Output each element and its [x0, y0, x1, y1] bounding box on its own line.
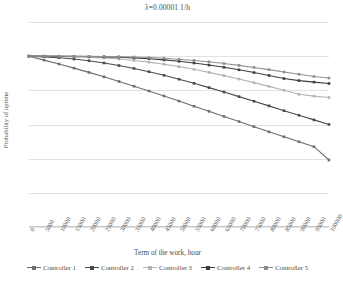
- data-point-marker: [178, 78, 181, 81]
- data-point-marker: [88, 71, 91, 74]
- legend-label: Controller 3: [159, 264, 192, 271]
- data-point-marker: [178, 58, 181, 61]
- data-point-marker: [163, 63, 166, 66]
- data-point-marker: [103, 62, 106, 65]
- data-point-marker: [283, 71, 286, 74]
- data-point-marker: [328, 96, 331, 99]
- legend-item-3[interactable]: Controller 3: [143, 264, 192, 271]
- data-point-marker: [253, 71, 256, 74]
- data-point-marker: [208, 71, 211, 74]
- data-point-marker: [118, 80, 121, 83]
- legend-marker-icon: [143, 265, 157, 271]
- legend-marker-icon: [85, 265, 99, 271]
- data-point-marker: [238, 95, 241, 98]
- data-point-marker: [268, 68, 271, 71]
- data-point-marker: [193, 59, 196, 62]
- data-point-marker: [328, 82, 331, 85]
- legend-item-2[interactable]: Controller 2: [85, 264, 134, 271]
- data-point-marker: [298, 93, 301, 96]
- data-point-marker: [223, 115, 226, 118]
- data-point-marker: [88, 59, 91, 62]
- data-point-marker: [208, 86, 211, 89]
- legend-marker-icon: [259, 265, 273, 271]
- data-point-marker: [133, 85, 136, 88]
- data-point-marker: [148, 56, 151, 59]
- data-point-marker: [238, 64, 241, 67]
- data-point-marker: [238, 69, 241, 72]
- legend-label: Controller 4: [217, 264, 250, 271]
- data-point-marker: [148, 90, 151, 93]
- data-point-marker: [268, 85, 271, 88]
- data-point-marker: [253, 81, 256, 84]
- data-point-marker: [73, 55, 76, 58]
- data-point-marker: [148, 70, 151, 73]
- chart-legend: Controller 1Controller 2Controller 3Cont…: [0, 264, 335, 271]
- x-axis-title: Term of the work, hour: [0, 249, 335, 257]
- data-point-marker: [118, 64, 121, 67]
- y-axis-title-wrap: Probability of uptime: [0, 60, 11, 180]
- data-point-marker: [313, 95, 316, 98]
- data-point-marker: [133, 67, 136, 70]
- x-axis-tick-label: 100000: [328, 213, 343, 233]
- data-point-marker: [133, 59, 136, 62]
- data-point-marker: [148, 61, 151, 64]
- data-point-marker: [223, 66, 226, 69]
- plot-area: 00,20,40,60,811,2: [29, 22, 329, 227]
- data-point-marker: [328, 159, 331, 162]
- data-point-marker: [298, 79, 301, 82]
- data-point-marker: [43, 55, 46, 58]
- y-axis-title: Probability of uptime: [2, 92, 9, 148]
- data-point-marker: [283, 109, 286, 112]
- data-point-marker: [328, 77, 331, 80]
- data-point-marker: [223, 74, 226, 77]
- data-point-marker: [268, 105, 271, 108]
- data-point-marker: [283, 77, 286, 80]
- data-point-marker: [268, 74, 271, 77]
- data-point-marker: [133, 56, 136, 59]
- data-point-marker: [163, 57, 166, 60]
- data-point-marker: [238, 78, 241, 81]
- legend-item-1[interactable]: Controller 1: [27, 264, 76, 271]
- data-point-marker: [193, 82, 196, 85]
- data-point-marker: [298, 114, 301, 117]
- data-point-marker: [253, 125, 256, 128]
- legend-marker-icon: [27, 265, 41, 271]
- data-point-marker: [298, 73, 301, 76]
- data-point-marker: [298, 140, 301, 143]
- legend-label: Controller 1: [43, 264, 76, 271]
- legend-marker-icon: [201, 265, 215, 271]
- data-point-marker: [163, 74, 166, 77]
- data-point-marker: [163, 95, 166, 98]
- data-point-marker: [28, 55, 31, 58]
- data-point-marker: [313, 75, 316, 78]
- data-point-marker: [283, 136, 286, 139]
- data-point-marker: [73, 58, 76, 61]
- data-point-marker: [223, 91, 226, 94]
- legend-label: Controller 2: [101, 264, 134, 271]
- data-point-marker: [178, 100, 181, 103]
- data-point-marker: [208, 110, 211, 113]
- data-point-marker: [253, 100, 256, 103]
- data-point-marker: [73, 67, 76, 70]
- data-point-marker: [328, 123, 331, 126]
- data-point-marker: [238, 120, 241, 123]
- data-point-marker: [58, 55, 61, 58]
- series-plot: [29, 22, 329, 227]
- data-point-marker: [118, 55, 121, 58]
- data-point-marker: [223, 62, 226, 65]
- data-point-marker: [283, 89, 286, 92]
- data-point-marker: [103, 55, 106, 58]
- data-point-marker: [208, 64, 211, 67]
- data-point-marker: [208, 61, 211, 64]
- data-point-marker: [313, 81, 316, 84]
- data-point-marker: [313, 119, 316, 122]
- data-point-marker: [268, 131, 271, 134]
- chart-title: λ=0.00001 1/h: [0, 3, 335, 12]
- data-point-marker: [313, 145, 316, 148]
- legend-item-4[interactable]: Controller 4: [201, 264, 250, 271]
- legend-label: Controller 5: [275, 264, 308, 271]
- data-point-marker: [103, 76, 106, 79]
- legend-item-5[interactable]: Controller 5: [259, 264, 308, 271]
- data-point-marker: [193, 62, 196, 65]
